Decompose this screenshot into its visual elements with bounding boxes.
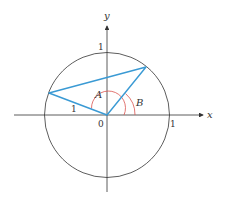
y-axis-label: y [103, 10, 110, 21]
angle-label-a: A [94, 89, 102, 100]
x-tick-label: 1 [170, 119, 176, 129]
side-length-label: 1 [71, 104, 77, 114]
origin-label: 0 [98, 119, 104, 129]
y-tick-label: 1 [98, 42, 104, 52]
angle-label-b: B [135, 97, 143, 108]
unit-circle-diagram: y x 1 1 0 1 A B [0, 0, 226, 202]
angle-arc-b [126, 94, 136, 116]
x-axis-label: x [207, 109, 213, 120]
